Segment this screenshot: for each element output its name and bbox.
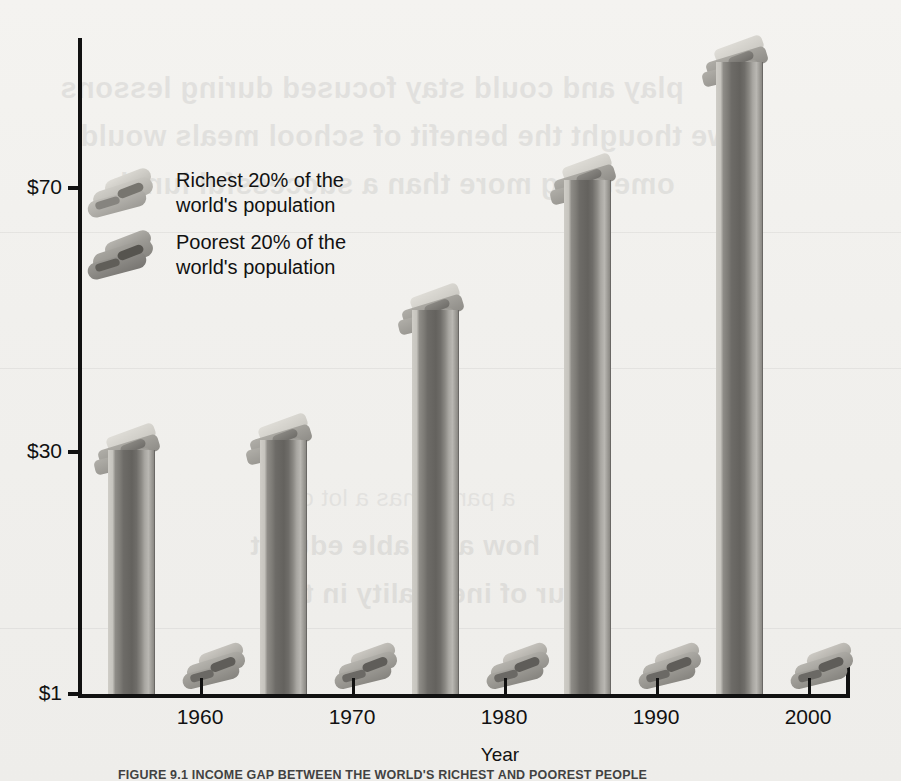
legend-label-poorest-line1: Poorest 20% of the [176, 230, 346, 255]
x-tick-1960 [200, 678, 203, 696]
bar-poorest-2000 [788, 642, 864, 696]
bar-richest-1970 [260, 420, 306, 694]
dollar-sign-3d-dark-icon [84, 232, 164, 280]
x-tick-1970 [352, 678, 355, 696]
y-tick-70 [68, 186, 82, 190]
y-tick-label-30: $30 [0, 439, 62, 463]
x-tick-1980 [504, 678, 507, 696]
legend-item-richest: Richest 20% of the world's population [84, 168, 414, 230]
bar-richest-1990 [564, 160, 610, 694]
bar-poorest-1990 [636, 642, 712, 696]
chart-legend: Richest 20% of the world's population Po… [84, 168, 414, 292]
legend-label-richest-line2: world's population [176, 193, 344, 218]
y-tick-label-1: $1 [0, 681, 62, 705]
bar-poorest-1980 [484, 642, 560, 696]
bar-richest-1960 [108, 430, 154, 694]
x-tick-label-2000: 2000 [753, 705, 863, 729]
dollar-sign-3d-light-icon [84, 170, 164, 218]
x-tick-label-1990: 1990 [601, 705, 711, 729]
x-tick-label-1960: 1960 [145, 705, 255, 729]
legend-item-poorest: Poorest 20% of the world's population [84, 230, 414, 292]
y-tick-1 [68, 692, 82, 696]
x-tick-label-1980: 1980 [449, 705, 559, 729]
x-axis-title: Year [400, 744, 600, 766]
x-tick-2000 [808, 678, 811, 696]
legend-label-poorest: Poorest 20% of the world's population [176, 230, 346, 280]
bar-poorest-1970 [332, 642, 408, 696]
legend-label-richest-line1: Richest 20% of the [176, 168, 344, 193]
legend-label-richest: Richest 20% of the world's population [176, 168, 344, 218]
y-tick-30 [68, 450, 82, 454]
y-axis-line [78, 38, 82, 696]
x-tick-1990 [656, 678, 659, 696]
y-tick-label-70: $70 [0, 175, 62, 199]
bar-poorest-1960 [180, 642, 256, 696]
bar-richest-2000 [716, 42, 762, 694]
income-gap-bar-chart: $70 $30 $1 1960 1970 [0, 0, 901, 781]
bar-richest-1980 [412, 290, 458, 694]
legend-label-poorest-line2: world's population [176, 255, 346, 280]
x-tick-label-1970: 1970 [297, 705, 407, 729]
figure-caption: FIGURE 9.1 INCOME GAP BETWEEN THE WORLD'… [118, 768, 647, 781]
